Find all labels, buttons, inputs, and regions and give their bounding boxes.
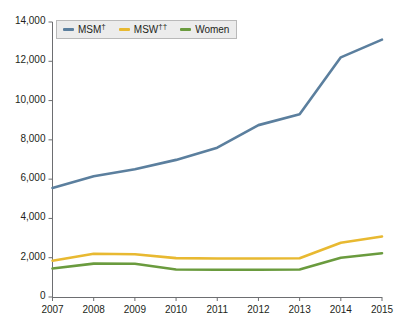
y-axis-tick-label: 2,000	[20, 251, 45, 262]
x-axis-tick-label: 2010	[156, 304, 196, 315]
x-axis-tick-label: 2008	[74, 304, 114, 315]
legend-item-msm[interactable]: MSM†	[63, 24, 106, 35]
y-axis-ticks	[49, 22, 53, 297]
legend-item-msw[interactable]: MSW††	[119, 24, 167, 35]
y-axis-tick-label: 8,000	[20, 133, 45, 144]
x-axis-tick-label: 2009	[115, 304, 155, 315]
y-axis-tick-label: 10,000	[15, 94, 46, 105]
y-axis-tick-label: 4,000	[20, 211, 45, 222]
y-axis-tick-label: 12,000	[15, 54, 46, 65]
legend-swatch-icon	[180, 28, 191, 31]
data-series-layer	[53, 40, 383, 270]
x-axis-tick-label: 2012	[238, 304, 278, 315]
legend-item-label: Women	[195, 24, 229, 35]
x-axis-tick-label: 2007	[33, 304, 73, 315]
legend-swatch-icon	[119, 28, 130, 31]
legend-item-label: MSW††	[134, 24, 167, 35]
x-axis-tick-label: 2015	[362, 304, 398, 315]
legend-swatch-icon	[63, 28, 74, 31]
x-axis-tick-label: 2013	[280, 304, 320, 315]
y-axis-tick-label: 6,000	[20, 172, 45, 183]
legend-item-women[interactable]: Women	[180, 24, 229, 35]
y-axis-tick-label: 14,000	[15, 15, 46, 26]
x-axis-tick-label: 2014	[321, 304, 361, 315]
series-line-msm	[53, 40, 383, 188]
axis-lines	[53, 22, 383, 298]
legend-footnote-marker: †	[101, 22, 105, 31]
legend-item-label: MSM†	[78, 24, 106, 35]
series-line-msw	[53, 237, 383, 261]
chart-legend: MSM†MSW††Women	[56, 20, 237, 39]
y-axis-tick-label: 0	[40, 290, 46, 301]
x-axis-tick-label: 2011	[197, 304, 237, 315]
series-line-women	[53, 253, 383, 270]
legend-footnote-marker: ††	[158, 22, 167, 31]
